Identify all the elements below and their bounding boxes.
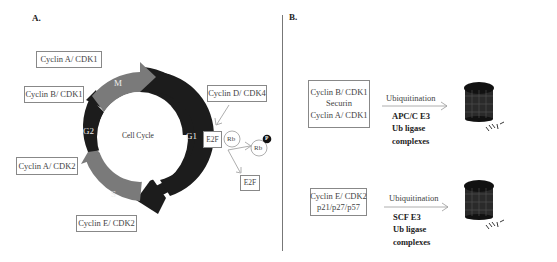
phase-g1-label: G1 — [186, 131, 197, 141]
phase-s-label: S — [111, 189, 116, 199]
e2f-bound-box: E2F — [203, 131, 222, 148]
cyclin-b-cdk1-box: Cyclin B/ CDK1 — [24, 86, 84, 103]
phase-m-label: M — [114, 78, 122, 88]
phosphate-label: P — [265, 135, 268, 141]
rb-phosphorylated-label: Rb — [254, 144, 262, 152]
phase-g2-label: G2 — [83, 126, 94, 136]
process-label-1: Ubiquitination — [386, 93, 436, 103]
process-label-2: Ubiquitination — [389, 193, 439, 203]
ligase-label-1: APC/C E3 Ub ligase complexes — [392, 110, 430, 147]
e2f-free-box: E2F — [240, 175, 260, 191]
cyclin-a-cdk2-box: Cyclin A/ CDK2 — [16, 157, 78, 175]
cyclin-d-cdk4-box: Cyclin D/ CDK4 — [207, 85, 267, 102]
rb-bound-label: Rb — [227, 135, 235, 143]
ligase-2-line-3: complexes — [393, 236, 430, 248]
substrate-2-line-2: p21/p27/p57 — [317, 202, 360, 213]
proteasome-icon-2 — [464, 180, 504, 229]
substrate-1-line-1: Cyclin B/ CDK1 — [310, 87, 367, 98]
substrate-box-2: Cyclin E/ CDK2 p21/p27/p57 — [310, 188, 367, 216]
ligase-1-line-3: complexes — [392, 135, 430, 147]
substrate-2-line-1: Cyclin E/ CDK2 — [310, 191, 367, 202]
substrate-1-line-2: Securin — [326, 98, 352, 109]
ligase-label-2: SCF E3 Ub ligase complexes — [393, 211, 430, 248]
proteasome-icon-1 — [464, 82, 504, 131]
substrate-box-1: Cyclin B/ CDK1 Securin Cyclin A/ CDK1 — [308, 80, 370, 128]
cyclin-a-cdk1-box: Cyclin A/ CDK1 — [36, 51, 102, 68]
cell-cycle-center-label: Cell Cycle — [122, 131, 154, 140]
ligase-2-line-2: Ub ligase — [393, 223, 430, 235]
cyclin-e-cdk2-box: Cyclin E/ CDK2 — [76, 215, 137, 232]
ligase-1-line-1: APC/C E3 — [392, 110, 430, 122]
ligase-2-line-1: SCF E3 — [393, 211, 430, 223]
substrate-1-line-3: Cyclin A/ CDK1 — [310, 110, 367, 121]
ligase-1-line-2: Ub ligase — [392, 122, 430, 134]
